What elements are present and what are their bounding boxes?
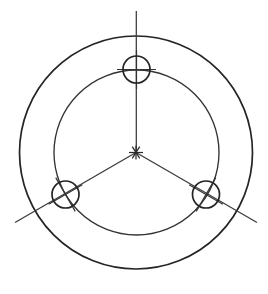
hole-bottom-right-group bbox=[189, 178, 223, 212]
hole-bottom-left-group bbox=[49, 178, 83, 212]
centerline-lower-left bbox=[15, 153, 136, 223]
centerlines-group bbox=[15, 11, 257, 223]
hole-bottom-left-crosshair-icon bbox=[49, 178, 83, 212]
hole-bottom-right-crosshair-icon bbox=[189, 178, 223, 212]
hole-top-group bbox=[117, 50, 156, 89]
centerline-lower-right bbox=[136, 153, 257, 223]
flange-bolt-circle-drawing bbox=[0, 0, 268, 294]
center-asterisk-icon bbox=[129, 146, 143, 160]
